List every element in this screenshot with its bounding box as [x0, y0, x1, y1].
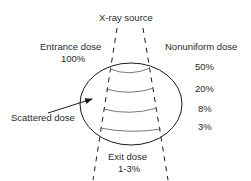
dose-arc-3: [100, 128, 161, 131]
dose-level-8: 8%: [198, 103, 212, 114]
exit-dose-value: 1-3%: [118, 163, 140, 174]
xray-dose-diagram: X-ray source Entrance dose 100% Nonunifo…: [0, 0, 251, 181]
entrance-dose-value: 100%: [61, 53, 85, 64]
xray-source-label: X-ray source: [99, 12, 153, 23]
dose-level-20: 20%: [195, 83, 214, 94]
dose-level-50: 50%: [195, 61, 214, 72]
scattered-dose-label: Scattered dose: [11, 112, 75, 123]
exit-dose-label: Exit dose: [108, 151, 147, 162]
entrance-dose-label: Entrance dose: [40, 41, 101, 52]
dose-arc-50: [110, 68, 150, 73]
scattered-arrow-icon: [48, 99, 92, 113]
patient-body-ellipse: [80, 63, 182, 145]
dose-arc-8: [103, 108, 157, 112]
dose-level-3: 3%: [198, 121, 212, 132]
nonuniform-dose-label: Nonuniform dose: [165, 41, 237, 52]
dose-arc-20: [106, 88, 154, 92]
